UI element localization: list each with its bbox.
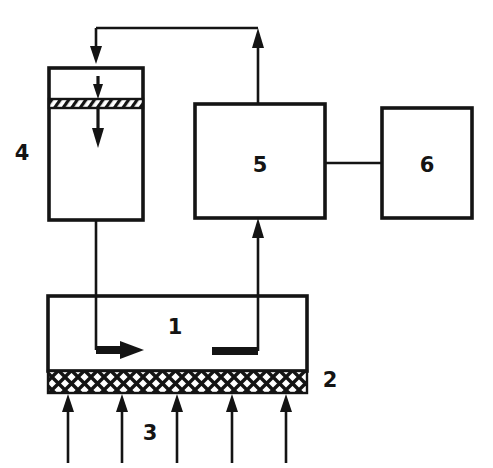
inlet-arrow-head-2-icon — [116, 394, 128, 412]
label-component-1: 1 — [168, 315, 183, 339]
label-component-2: 2 — [323, 368, 338, 392]
inlet-arrow-head-4-icon — [226, 394, 238, 412]
component-4-column-vessel[interactable] — [49, 68, 143, 220]
component-2-mesh-distributor-plate[interactable] — [48, 371, 307, 393]
label-component-3: 3 — [143, 421, 158, 445]
arrow-down-into-vessel-icon — [90, 46, 102, 64]
arrow-up-into-loop-icon — [252, 28, 264, 48]
component-3-inlet-arrows — [62, 394, 292, 463]
diagram-canvas: 1 2 3 4 5 6 — [0, 0, 493, 468]
inlet-arrow-head-3-icon — [171, 394, 183, 412]
label-component-6: 6 — [420, 153, 435, 177]
inlet-arrow-head-1-icon — [62, 394, 74, 412]
label-component-5: 5 — [253, 153, 268, 177]
inlet-arrow-head-5-icon — [280, 394, 292, 412]
plate-2-mesh[interactable] — [48, 371, 307, 393]
label-component-4: 4 — [15, 141, 30, 165]
vessel-4-hatched-band — [49, 99, 143, 108]
arrow-up-into-unit5-icon — [252, 218, 264, 238]
apparatus-schematic: 1 2 3 4 5 6 — [0, 0, 493, 468]
